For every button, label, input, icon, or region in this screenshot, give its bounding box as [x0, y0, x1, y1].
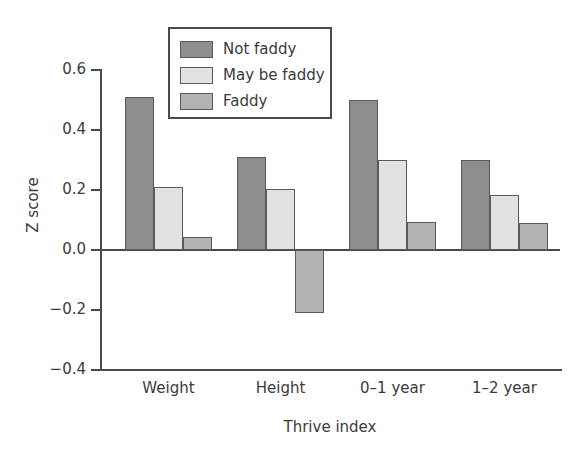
bar [295, 250, 324, 313]
legend-item: Not faddy [180, 36, 330, 62]
x-axis-title: Thrive index [100, 418, 560, 436]
bar [266, 189, 295, 251]
legend-swatch-may-be-faddy [180, 67, 213, 84]
legend-swatch-not-faddy [180, 41, 213, 58]
y-axis-spine [100, 69, 102, 371]
y-axis-tick [91, 189, 100, 191]
bar-chart-figure: 0.60.40.20.0−0.2−0.4 Z score WeightHeigh… [0, 0, 578, 456]
legend-label-may-be-faddy: May be faddy [223, 68, 325, 83]
y-axis-tick-label: 0.6 [42, 60, 86, 78]
y-axis-tick [91, 249, 100, 251]
y-axis-tick-label: 0.2 [42, 180, 86, 198]
bar [349, 100, 378, 250]
y-axis-title: Z score [24, 145, 42, 265]
legend-item: Faddy [180, 88, 330, 114]
bar [461, 160, 490, 250]
y-axis-tick [91, 309, 100, 311]
y-axis-tick [91, 129, 100, 131]
bar [125, 97, 154, 250]
y-axis-tick [91, 69, 100, 71]
legend-swatch-faddy [180, 93, 213, 110]
x-axis-spine [100, 369, 562, 371]
bar [183, 237, 212, 251]
bar [154, 187, 183, 250]
y-axis-tick-label: 0.0 [42, 240, 86, 258]
y-axis-tick-label: −0.4 [42, 360, 86, 378]
legend-item: May be faddy [180, 62, 330, 88]
bar [378, 160, 407, 250]
bar [490, 195, 519, 251]
y-axis-tick [91, 369, 100, 371]
bar [407, 222, 436, 251]
legend-label-faddy: Faddy [223, 94, 267, 109]
x-axis-category-label: 1–2 year [433, 379, 576, 397]
legend-label-not-faddy: Not faddy [223, 42, 296, 57]
bar [519, 223, 548, 250]
bar [237, 157, 266, 250]
legend: Not faddy May be faddy Faddy [168, 27, 332, 119]
y-axis-tick-label: 0.4 [42, 120, 86, 138]
y-axis-tick-label: −0.2 [42, 300, 86, 318]
